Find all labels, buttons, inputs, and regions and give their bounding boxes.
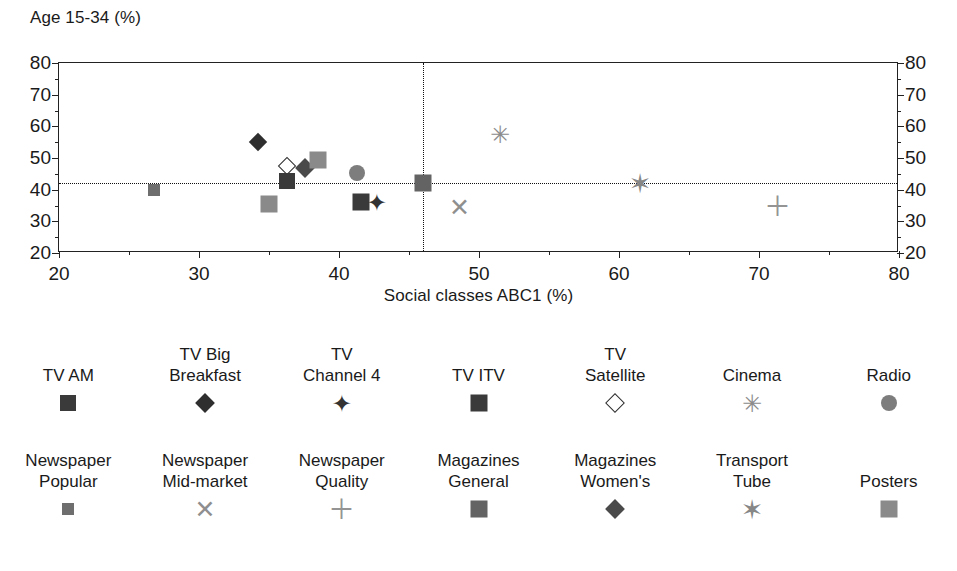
legend-item[interactable]: Newspaper Mid-market✕ (137, 450, 274, 529)
legend-marker-icon: ✦ (329, 391, 354, 416)
plot-area: 2020303040405050606070708080203040506070… (58, 62, 898, 252)
x-tick-minor (689, 251, 690, 255)
legend-item-label: Transport Tube (684, 450, 821, 492)
x-tick-label: 70 (729, 264, 789, 283)
legend-swatch (410, 495, 547, 529)
data-point (261, 196, 278, 213)
y-tick-minor (55, 142, 59, 143)
legend-marker-icon (470, 395, 487, 412)
legend-item-label: Magazines General (410, 450, 547, 492)
legend-item-label: Newspaper Mid-market (137, 450, 274, 492)
legend-item[interactable]: TV Big Breakfast (137, 344, 274, 423)
legend-item[interactable]: Cinema✳ (684, 344, 821, 423)
legend-item[interactable]: Newspaper Quality＋ (273, 450, 410, 529)
legend-marker-icon (880, 501, 897, 518)
chart-legend: TV AMTV Big BreakfastTV Channel 4✦TV ITV… (0, 344, 957, 571)
y-tick-label-right: 60 (905, 116, 951, 135)
legend-item[interactable]: TV ITV (410, 344, 547, 423)
x-tick-label: 20 (29, 264, 89, 283)
legend-item-label: TV Big Breakfast (137, 344, 274, 386)
legend-item[interactable]: Newspaper Popular (0, 450, 137, 529)
legend-item[interactable]: TV Satellite (547, 344, 684, 423)
y-tick-minor (55, 111, 59, 112)
legend-item-label: Cinema (684, 344, 821, 386)
x-tick-minor (409, 251, 410, 255)
x-tick-major (339, 251, 340, 258)
y-tick-major (52, 158, 59, 159)
legend-marker-icon: ＋ (328, 495, 356, 523)
data-point (148, 184, 160, 196)
legend-swatch (0, 389, 137, 423)
legend-item[interactable]: Magazines General (410, 450, 547, 529)
y-tick-minor-right (897, 79, 901, 80)
data-point (415, 175, 432, 192)
legend-item-label: Newspaper Quality (273, 450, 410, 492)
legend-item[interactable]: TV Channel 4✦ (273, 344, 410, 423)
x-tick-major (199, 251, 200, 258)
data-point (279, 173, 295, 189)
data-point: ＋ (763, 192, 791, 220)
legend-item[interactable]: Radio (820, 344, 957, 423)
legend-item-label: Newspaper Popular (0, 450, 137, 492)
x-tick-minor (269, 251, 270, 255)
x-tick-label: 50 (449, 264, 509, 283)
y-tick-major (52, 190, 59, 191)
data-point (278, 156, 296, 174)
legend-item-label: Posters (820, 450, 957, 492)
y-tick-major-right (897, 190, 904, 191)
y-tick-minor-right (897, 111, 901, 112)
x-tick-label: 40 (309, 264, 369, 283)
y-tick-minor-right (897, 237, 901, 238)
legend-item[interactable]: Transport Tube✶ (684, 450, 821, 529)
legend-swatch (410, 389, 547, 423)
legend-swatch: ✕ (137, 495, 274, 529)
y-tick-label: 40 (5, 180, 51, 199)
y-tick-minor (55, 237, 59, 238)
x-tick-major (479, 251, 480, 258)
y-tick-minor-right (897, 206, 901, 207)
legend-swatch (547, 389, 684, 423)
y-tick-major-right (897, 158, 904, 159)
legend-marker-icon: ✕ (192, 496, 218, 522)
legend-swatch (820, 389, 957, 423)
y-tick-label-right: 30 (905, 211, 951, 230)
y-tick-minor (55, 206, 59, 207)
y-tick-label-right: 40 (905, 180, 951, 199)
data-point: ✳ (488, 122, 513, 147)
y-tick-label-right: 80 (905, 53, 951, 72)
legend-marker-icon (605, 393, 625, 413)
legend-item[interactable]: Magazines Women's (547, 450, 684, 529)
y-tick-label-right: 50 (905, 148, 951, 167)
data-point: ✕ (446, 194, 472, 220)
legend-swatch: ＋ (273, 495, 410, 529)
legend-swatch (137, 389, 274, 423)
legend-marker-icon (62, 503, 74, 515)
x-tick-label: 80 (869, 264, 929, 283)
y-tick-major (52, 95, 59, 96)
legend-marker-icon (605, 499, 625, 519)
y-tick-major-right (897, 63, 904, 64)
y-tick-minor-right (897, 174, 901, 175)
y-tick-major (52, 221, 59, 222)
legend-marker-icon (470, 501, 487, 518)
y-tick-label: 20 (5, 243, 51, 262)
x-tick-minor (129, 251, 130, 255)
y-axis-title: Age 15-34 (%) (30, 8, 141, 28)
y-tick-minor (55, 79, 59, 80)
legend-swatch: ✶ (684, 495, 821, 529)
legend-item-label: TV ITV (410, 344, 547, 386)
x-tick-major (759, 251, 760, 258)
legend-item-label: Magazines Women's (547, 450, 684, 492)
legend-item[interactable]: TV AM (0, 344, 137, 423)
y-tick-major-right (897, 95, 904, 96)
y-tick-major (52, 126, 59, 127)
x-tick-major (59, 251, 60, 258)
y-tick-label: 80 (5, 53, 51, 72)
y-tick-label: 30 (5, 211, 51, 230)
legend-item[interactable]: Posters (820, 450, 957, 529)
legend-marker-icon (60, 395, 76, 411)
data-point (349, 165, 365, 181)
data-point (310, 151, 327, 168)
y-tick-label-right: 70 (905, 85, 951, 104)
vertical-reference-line (423, 63, 424, 251)
